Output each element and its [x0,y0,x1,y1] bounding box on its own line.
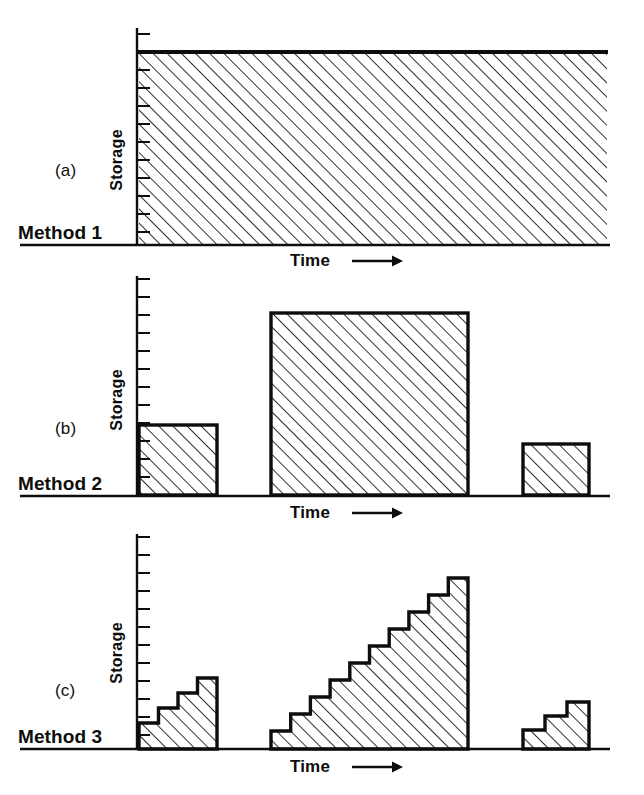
figure-storage-vs-time: Storage (a) Method 1 Time [0,0,644,795]
panel-a-method-1: Storage (a) Method 1 Time [0,0,644,268]
panel-label-b: (b) [55,419,76,438]
panel-label-a: (a) [55,161,76,180]
method-label-2: Method 2 [18,473,102,494]
storage-bar-3 [523,444,589,495]
x-axis-label-time: Time [290,251,330,268]
x-axis-label-time: Time [290,757,330,776]
panel-b-method-2: Storage (b) Method 2 Time [0,268,644,526]
y-axis-ticks [137,537,150,735]
x-axis-label-time: Time [290,503,330,522]
storage-region-constant [139,52,607,245]
panel-c-method-3: Storage (c) Method 3 Time [0,526,644,795]
storage-staircase-3 [523,702,589,749]
time-arrow-icon [352,762,403,773]
storage-staircase-1 [139,678,217,749]
method-label-3: Method 3 [18,726,102,747]
y-axis-label-storage: Storage [108,622,125,684]
y-axis-label-storage: Storage [108,129,125,191]
storage-staircase-2 [271,578,468,749]
time-arrow-icon [352,508,403,519]
time-arrow-icon [352,256,403,267]
panel-label-c: (c) [55,681,75,700]
storage-bar-2 [271,313,468,495]
storage-bar-1 [139,425,217,495]
method-label-1: Method 1 [18,222,103,243]
y-axis-label-storage: Storage [108,369,125,431]
